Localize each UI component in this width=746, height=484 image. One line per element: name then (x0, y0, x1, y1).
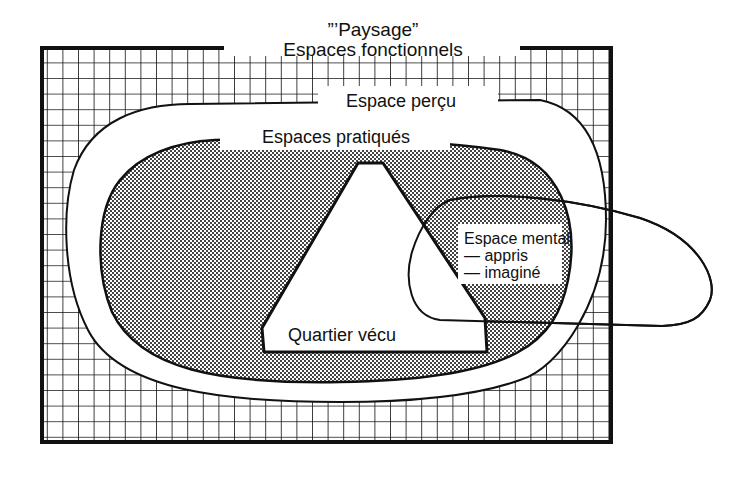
title-paysage: ”’Paysage” (0, 20, 746, 39)
label-espace-mental: Espace mental — appris — imaginé (464, 230, 570, 281)
label-mental-appris: — appris (464, 247, 570, 264)
title-espaces-fonctionnels: Espaces fonctionnels (0, 40, 746, 59)
label-espaces-pratiques: Espaces pratiqués (262, 128, 410, 146)
diagram-canvas (0, 0, 746, 484)
label-quartier-vecu: Quartier vécu (288, 326, 396, 344)
label-mental-imagine: — imaginé (464, 264, 570, 281)
label-espace-percu: Espace perçu (346, 92, 456, 110)
label-mental-title: Espace mental (464, 230, 570, 247)
